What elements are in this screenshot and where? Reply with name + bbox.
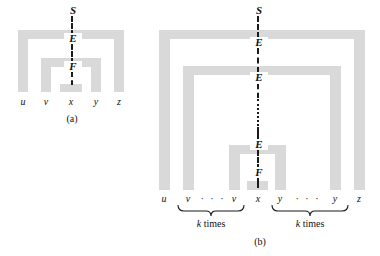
terminal-label-y-a: y: [89, 97, 103, 107]
terminal-label-x-a: x: [64, 97, 78, 107]
brace-left-b: [176, 205, 246, 217]
terminal-label-u-a: u: [16, 97, 30, 107]
ellipsis-right-b: · · ·: [291, 194, 325, 204]
subfigure-b: S E E E F u v · · · v x y · · · y z k ti…: [150, 0, 380, 256]
arch-middle-right-a: [91, 58, 101, 92]
terminal-label-v1-b: v: [181, 194, 195, 204]
arch-outer-right-b: [354, 30, 365, 190]
nonterminal-e2-b: E: [250, 72, 268, 83]
arch-outer-right-a: [114, 30, 124, 92]
nonterminal-s-a: S: [64, 5, 82, 16]
terminal-label-v2-b: v: [227, 194, 241, 204]
subfigure-a: S E F u v x y z (a): [0, 0, 150, 128]
figure-root: S E F u v x y z (a) S E: [0, 0, 380, 256]
nonterminal-f-b: F: [250, 167, 268, 178]
ellipsis-left-b: · · ·: [198, 194, 228, 204]
nonterminal-e1-b: E: [250, 37, 268, 48]
arch-inner-right-b: [275, 145, 286, 190]
brace-left-times: times: [204, 218, 226, 229]
arch-outer-left-b: [159, 30, 170, 190]
terminal-label-y2-b: y: [328, 194, 342, 204]
terminal-label-y1-b: y: [273, 194, 287, 204]
arch-outer-left-a: [18, 30, 28, 92]
terminal-block-x-a: [60, 84, 82, 92]
caption-a: (a): [56, 114, 88, 124]
brace-left-label-b: k times: [176, 219, 246, 229]
brace-left-k: k: [197, 218, 201, 229]
vertical-ellipsis-b: [257, 99, 259, 126]
terminal-label-v-a: v: [39, 97, 53, 107]
brace-right-b: [270, 205, 350, 217]
terminal-label-x-b: x: [251, 194, 265, 204]
nonterminal-e-a: E: [64, 33, 82, 44]
terminal-label-z-a: z: [112, 97, 126, 107]
spine-f-x-b: [257, 178, 259, 188]
terminal-label-u-b: u: [157, 194, 171, 204]
spine-e2-dots-b: [257, 84, 259, 98]
spine-f-x-a: [71, 72, 73, 85]
nonterminal-f-a: F: [64, 61, 82, 72]
caption-b: (b): [244, 237, 276, 247]
nonterminal-s-b: S: [250, 5, 268, 16]
terminal-label-z-b: z: [352, 194, 366, 204]
arch-middle-right-b: [330, 66, 341, 190]
brace-right-label-b: k times: [270, 219, 350, 229]
spine-s-e1-b: [257, 16, 259, 38]
arch-middle-left-b: [183, 66, 194, 190]
brace-right-k: k: [296, 218, 300, 229]
nonterminal-e3-b: E: [250, 139, 268, 150]
brace-right-times: times: [303, 218, 325, 229]
spine-e1-e2-b: [257, 48, 259, 73]
